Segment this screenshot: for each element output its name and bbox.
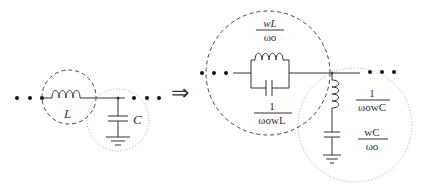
transform-arrow: ⇒: [171, 80, 189, 105]
shunt-bottom-fraction: wC ωo: [358, 126, 388, 152]
series-shunt-boundary: [298, 68, 412, 182]
parallel-bottom-fraction: 1 ωowL: [254, 100, 292, 126]
circuit-diagram: L C ⇒ wL ωo: [0, 0, 423, 191]
inductor-icon: [52, 91, 80, 99]
svg-text:1: 1: [269, 100, 275, 112]
right-circuit: [200, 11, 412, 182]
inductor-label: L: [63, 106, 71, 121]
svg-text:ωo: ωo: [366, 140, 379, 152]
capacitor-label: C: [133, 112, 142, 127]
svg-text:wC: wC: [364, 126, 379, 138]
inductor-icon: [332, 80, 339, 108]
svg-text:ωowL: ωowL: [258, 114, 286, 126]
ellipsis-dot: [15, 96, 19, 100]
svg-text:1: 1: [369, 87, 375, 99]
svg-text:ωowC: ωowC: [358, 101, 386, 113]
svg-text:wL: wL: [263, 17, 276, 29]
parallel-top-fraction: wL ωo: [256, 17, 284, 43]
shunt-top-fraction: 1 ωowC: [356, 87, 390, 113]
ellipsis-dot: [28, 96, 32, 100]
inductor-icon: [255, 53, 289, 60]
svg-text:ωo: ωo: [264, 31, 277, 43]
left-circuit: [15, 70, 161, 151]
